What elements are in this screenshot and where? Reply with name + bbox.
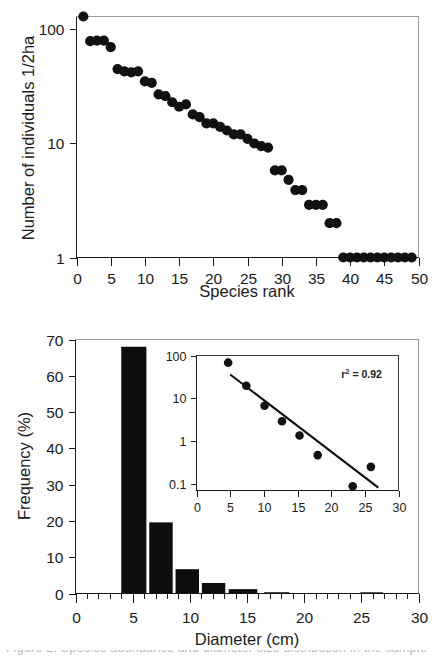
figure-caption: Figure 2. Species abundance and diameter…: [6, 650, 436, 655]
y-axis-title: Number of individuals 1/2ha: [19, 35, 37, 240]
inset-data-point: [367, 463, 376, 472]
data-point: [263, 143, 273, 153]
inset-data-point: [295, 431, 304, 440]
data-point: [181, 99, 191, 109]
y-axis-title: Frequency (%): [15, 412, 33, 520]
bar: [121, 347, 146, 594]
inset-data-point: [313, 451, 322, 460]
inset-data-point: [242, 381, 251, 390]
x-tick-label: 10: [137, 270, 155, 287]
bar: [202, 583, 225, 594]
figure-root: 110100 05101520253035404550 Number of in…: [0, 0, 438, 666]
x-tick-label: 25: [353, 609, 370, 626]
inset-x-tick-label: 15: [292, 501, 306, 515]
bar: [176, 569, 199, 593]
rank-abundance-panel: 110100 05101520253035404550 Number of in…: [0, 0, 438, 300]
data-point: [147, 78, 157, 88]
inset-y-tick-label: 0.1: [169, 478, 186, 492]
x-tick-label: 45: [376, 270, 393, 287]
data-point: [297, 185, 307, 195]
x-tick-label: 35: [308, 270, 325, 287]
diameter-frequency-panel: 010203040506070 051015202530 0.1110100 0…: [0, 300, 438, 650]
caption-strip: Figure 2. Species abundance and diameter…: [0, 650, 438, 666]
y-tick-label: 60: [46, 368, 64, 385]
x-tick-label: 20: [296, 609, 314, 626]
r-squared-value: = 0.92: [350, 368, 383, 380]
bar: [360, 592, 383, 593]
y-tick-label: 50: [46, 404, 64, 421]
y-tick-label: 70: [46, 332, 64, 349]
x-tick-label: 5: [129, 609, 138, 626]
data-point: [331, 218, 341, 228]
x-tick-label: 50: [411, 270, 429, 287]
y-tick-label: 100: [39, 21, 65, 38]
data-point: [283, 175, 293, 185]
x-tick-label: 40: [342, 270, 360, 287]
x-tick-label: 15: [239, 609, 256, 626]
x-tick-label: 15: [171, 270, 188, 287]
data-point: [318, 200, 328, 210]
inset-data-point: [260, 401, 269, 410]
y-tick-label: 30: [46, 477, 64, 494]
inset-x-tick-label: 30: [393, 501, 407, 515]
inset-plot: 0.1110100 051015202530 r2 = 0.92: [166, 350, 407, 515]
x-tick-label: 0: [72, 609, 81, 626]
bar: [229, 589, 258, 593]
bar: [149, 522, 172, 593]
data-point: [407, 252, 417, 262]
inset-data-point: [348, 482, 357, 491]
diameter-frequency-svg: 010203040506070 051015202530 0.1110100 0…: [0, 300, 438, 650]
data-point: [78, 11, 88, 21]
inset-x-axis-ticks: 051015202530: [194, 491, 406, 515]
y-tick-label: 40: [46, 440, 64, 457]
x-tick-label: 30: [411, 609, 429, 626]
y-tick-label: 10: [46, 549, 64, 566]
y-axis-ticks: 110100: [39, 21, 77, 267]
y-tick-label: 1: [56, 250, 65, 267]
inset-x-tick-label: 25: [359, 501, 373, 515]
inset-x-tick-label: 0: [194, 501, 201, 515]
inset-y-tick-label: 1: [180, 435, 187, 449]
bar: [264, 592, 289, 593]
data-point: [106, 42, 116, 52]
x-tick-label: 0: [73, 270, 82, 287]
inset-data-point: [278, 417, 287, 426]
inset-x-tick-label: 10: [258, 501, 272, 515]
inset-x-tick-label: 5: [227, 501, 234, 515]
inset-y-tick-label: 100: [166, 350, 187, 364]
y-axis-ticks: 010203040506070: [46, 332, 75, 603]
y-tick-label: 10: [47, 135, 65, 152]
x-tick-label: 10: [182, 609, 200, 626]
inset-y-axis-ticks: 0.1110100: [166, 350, 197, 492]
x-axis-title: Diameter (cm): [195, 630, 300, 648]
data-point: [133, 66, 143, 76]
y-tick-label: 0: [55, 586, 64, 603]
inset-data-point: [224, 358, 233, 367]
inset-x-tick-label: 20: [325, 501, 339, 515]
x-axis-title: Species rank: [199, 282, 295, 300]
data-point-group: [78, 11, 417, 262]
y-tick-label: 20: [46, 513, 64, 530]
x-tick-label: 5: [107, 270, 116, 287]
data-point: [277, 165, 287, 175]
x-axis-ticks: 051015202530: [72, 594, 428, 626]
inset-y-tick-label: 10: [173, 392, 187, 406]
rank-abundance-svg: 110100 05101520253035404550 Number of in…: [0, 0, 438, 300]
